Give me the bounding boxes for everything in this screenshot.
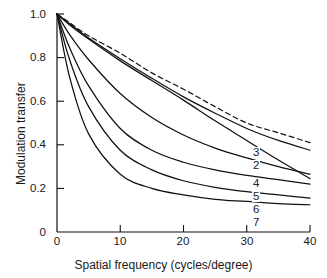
curve-4 [57, 14, 310, 174]
data-curves [57, 14, 310, 205]
y-tick-label-0: 0 [14, 226, 46, 238]
curve-label-6: 6 [252, 204, 260, 215]
chart-figure: 1.0 0.8 0.6 0.4 0.2 0 0 10 20 30 40 Modu… [0, 0, 327, 278]
y-tick-label-0.8: 0.8 [14, 51, 46, 63]
y-axis-title: Modulation transfer [14, 82, 28, 185]
y-axis-ticks [57, 14, 64, 188]
curve-label-3: 3 [252, 147, 260, 158]
curve-label-4: 4 [252, 178, 260, 189]
x-tick-label-30: 30 [235, 235, 259, 247]
curve-3 [57, 14, 310, 150]
curve-label-7: 7 [252, 217, 260, 228]
x-tick-label-20: 20 [171, 235, 195, 247]
x-axis-ticks [120, 225, 310, 232]
x-tick-label-10: 10 [108, 235, 132, 247]
curve-label-2: 2 [252, 160, 260, 171]
curve-label-5: 5 [252, 191, 260, 202]
x-axis-title: Spatial frequency (cycles/degree) [0, 258, 327, 272]
x-tick-label-40: 40 [298, 235, 322, 247]
x-tick-label-0: 0 [45, 235, 69, 247]
y-tick-label-1.0: 1.0 [14, 8, 46, 20]
dashed-reference [57, 14, 310, 143]
axes [57, 14, 310, 232]
